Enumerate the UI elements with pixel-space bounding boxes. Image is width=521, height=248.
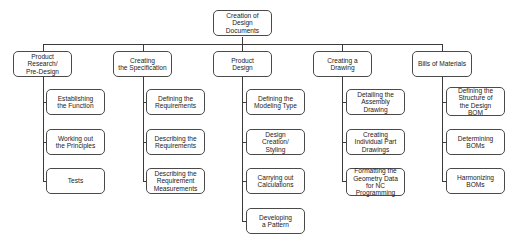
child-label: Tests bbox=[68, 177, 83, 184]
child-label: Carrying out Calculations bbox=[258, 174, 294, 189]
child-node: Determining BOMs bbox=[446, 129, 505, 155]
node-creating-specification: Creating the Specification bbox=[113, 51, 172, 77]
col5-spine bbox=[442, 77, 443, 182]
child-label: Defining the Modeling Type bbox=[254, 95, 297, 110]
child-label: Creating Individual Part Drawings bbox=[355, 131, 397, 153]
node-label: Creating the Specification bbox=[118, 57, 166, 72]
child-label: Detailing the Assembly Drawing bbox=[357, 91, 394, 113]
child-label: Establishing the Function bbox=[57, 95, 93, 110]
child-label: Determining BOMs bbox=[458, 135, 494, 150]
child-node: Working out the Principles bbox=[46, 129, 105, 155]
node-creating-drawing: Creating a Drawing bbox=[313, 51, 372, 77]
col1-spine bbox=[43, 77, 44, 182]
child-node: Establishing the Function bbox=[46, 89, 105, 115]
col2-spine bbox=[143, 77, 144, 182]
col1-drop bbox=[43, 44, 44, 51]
node-product-research: Product Research/ Pre-Design bbox=[13, 51, 72, 77]
child-node: Defining the Modeling Type bbox=[246, 89, 305, 115]
child-node: Describing the Requirement Measurements bbox=[146, 168, 205, 194]
node-product-design: Product Design bbox=[213, 51, 272, 77]
child-node: Formatting the Geometry Data for NC Prog… bbox=[346, 168, 405, 196]
node-label: Product Design bbox=[231, 57, 254, 72]
child-label: Developing a Pattern bbox=[259, 214, 292, 229]
col4-drop bbox=[342, 44, 343, 51]
col3-spine bbox=[242, 77, 243, 222]
root-connector bbox=[242, 37, 243, 44]
col3-drop bbox=[242, 44, 243, 51]
node-bills-of-materials: Bills of Materials bbox=[412, 51, 472, 77]
col4-spine bbox=[342, 77, 343, 182]
node-label: Bills of Materials bbox=[418, 60, 466, 67]
child-node: Tests bbox=[46, 168, 105, 194]
child-node: Creating Individual Part Drawings bbox=[346, 129, 405, 155]
child-node: Detailing the Assembly Drawing bbox=[346, 89, 405, 115]
top-bus-line bbox=[43, 44, 443, 45]
child-label: Describing the Requirement Measurements bbox=[154, 170, 198, 192]
child-node: Defining the Requirements bbox=[146, 89, 205, 115]
node-label: Creating a Drawing bbox=[327, 57, 357, 72]
col2-drop bbox=[143, 44, 144, 51]
child-label: Defining the Requirements bbox=[155, 95, 196, 110]
child-node: Harmonizing BOMs bbox=[446, 168, 505, 194]
root-node: Creation of Design Documents bbox=[213, 10, 272, 36]
node-label: Product Research/ Pre-Design bbox=[26, 53, 59, 75]
child-node: Carrying out Calculations bbox=[246, 168, 305, 194]
child-node: Describing the Requirements bbox=[146, 129, 205, 155]
root-node-label: Creation of Design Documents bbox=[226, 12, 259, 34]
child-node: Design Creation/ Styling bbox=[246, 129, 305, 155]
child-label: Harmonizing BOMs bbox=[457, 174, 494, 189]
child-label: Describing the Requirements bbox=[154, 135, 196, 150]
col5-drop bbox=[442, 44, 443, 51]
child-label: Defining the Structure of the Design BOM bbox=[458, 87, 493, 117]
child-label: Formatting the Geometry Data for NC Prog… bbox=[353, 167, 398, 197]
child-node: Developing a Pattern bbox=[246, 208, 305, 234]
child-node: Defining the Structure of the Design BOM bbox=[446, 87, 505, 116]
child-label: Working out the Principles bbox=[56, 135, 96, 150]
child-label: Design Creation/ Styling bbox=[262, 131, 289, 153]
